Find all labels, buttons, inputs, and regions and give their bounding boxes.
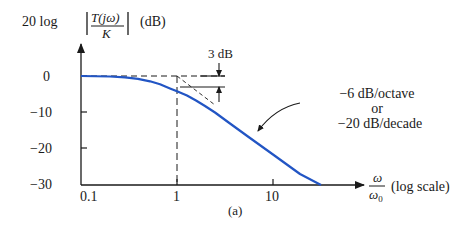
y-tick-label-0: 0 [43,69,50,84]
y-axis-label: 20 log T(jω) K (dB) [22,10,166,41]
y-tick-label-2: −20 [30,141,52,156]
three-db-label: 3 dB [208,46,233,61]
slope-annotation: −6 dB/octave or −20 dB/decade [258,86,422,131]
x-ticks: 0.1 1 10 [80,179,279,204]
y-label-prefix: 20 log [22,14,57,29]
slope-label-line1: −6 dB/octave [339,86,414,101]
y-tick-label-3: −30 [30,177,52,192]
x-label-numerator: ω [373,170,382,185]
slope-label-line2: or [371,101,383,116]
y-label-numerator: T(jω) [91,10,120,25]
x-tick-label-0: 0.1 [80,189,98,204]
y-ticks: 0 −10 −20 −30 [30,69,87,192]
x-label-suffix: (log scale) [391,179,450,195]
x-axis-label: ω ω0 (log scale) [369,170,450,204]
figure-caption: (a) [228,203,242,218]
x-tick-label-1: 1 [173,189,180,204]
slope-pointer-arrow [258,103,300,131]
y-tick-label-1: −10 [30,105,52,120]
magnitude-response-curve [81,76,321,185]
x-label-denominator: ω0 [369,187,383,204]
slope-label-line3: −20 dB/decade [338,116,422,131]
x-tick-label-2: 10 [265,189,279,204]
three-db-marker: 3 dB [180,46,233,102]
y-label-unit: (dB) [140,14,166,30]
bode-plot: 20 log T(jω) K (dB) 0 −10 −20 −30 0.1 1 … [0,0,468,235]
y-label-denominator: K [101,26,112,41]
